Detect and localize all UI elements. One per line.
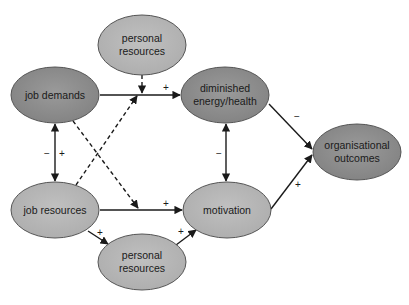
sign-personal-motivation: +	[178, 226, 184, 237]
path-model-diagram: + − + − − + + + + personal resources job…	[0, 0, 409, 305]
node-diminished-energy-health: diminished energy/health	[181, 67, 269, 123]
node-organisational-outcomes: organisational outcomes	[313, 124, 401, 180]
node-label: personal	[122, 249, 162, 261]
node-label: job resources	[22, 204, 86, 216]
sign-jobdemands-energy: +	[163, 82, 169, 93]
edge-motivation-outcomes	[271, 155, 312, 209]
sign-jobresources-motivation: +	[163, 198, 169, 209]
node-motivation: motivation	[183, 182, 271, 238]
sign-jd-jr-minus: −	[44, 148, 50, 159]
node-label: resources	[119, 45, 165, 57]
node-label: resources	[119, 262, 165, 274]
node-label: diminished	[200, 82, 250, 94]
node-personal-resources-bottom: personal resources	[98, 234, 186, 290]
sign-energy-outcomes: −	[294, 111, 300, 122]
node-label: organisational	[324, 139, 389, 151]
sign-jobresources-personal: +	[97, 227, 103, 238]
node-personal-resources-top: personal resources	[98, 15, 186, 75]
node-label: job demands	[24, 89, 85, 101]
node-job-resources: job resources	[11, 182, 99, 238]
sign-jd-jr-plus: +	[59, 148, 65, 159]
node-label: energy/health	[193, 95, 257, 107]
sign-motivation-outcomes: +	[295, 179, 301, 190]
node-label: outcomes	[334, 152, 380, 164]
node-label: personal	[122, 32, 162, 44]
node-job-demands: job demands	[11, 67, 99, 123]
edge-energy-outcomes	[269, 104, 312, 149]
sign-energy-motivation: −	[216, 148, 222, 159]
node-label: motivation	[203, 204, 251, 216]
